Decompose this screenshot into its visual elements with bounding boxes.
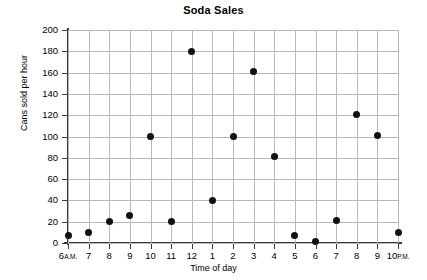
gridline-vertical xyxy=(316,30,317,243)
y-tick-label: 140 xyxy=(26,89,58,99)
x-tick-mark xyxy=(316,244,317,249)
data-point xyxy=(230,133,237,140)
y-tick-label: 0 xyxy=(26,238,58,248)
scatter-chart-figure: Soda Sales 020406080100120140160180200 6… xyxy=(0,0,427,280)
data-point xyxy=(291,232,298,239)
data-point xyxy=(188,48,195,55)
data-point xyxy=(168,218,175,225)
x-tick-mark xyxy=(254,244,255,249)
y-tick-mark xyxy=(62,179,68,180)
chart-title: Soda Sales xyxy=(0,4,427,16)
x-tick-mark xyxy=(171,244,172,249)
x-tick-mark xyxy=(357,244,358,249)
y-axis-title: Cans sold per hour xyxy=(19,23,29,163)
x-tick-mark xyxy=(68,244,69,249)
data-point xyxy=(374,132,381,139)
y-tick-mark xyxy=(62,73,68,74)
gridline-vertical xyxy=(254,30,255,243)
x-axis-title: Time of day xyxy=(0,263,427,273)
x-tick-mark xyxy=(109,244,110,249)
y-tick-label: 100 xyxy=(26,132,58,142)
data-point xyxy=(353,111,360,118)
gridline-vertical xyxy=(336,30,337,243)
data-point xyxy=(106,218,113,225)
y-tick-label: 40 xyxy=(26,195,58,205)
y-tick-mark xyxy=(62,222,68,223)
x-tick-mark xyxy=(233,244,234,249)
gridline-vertical xyxy=(357,30,358,243)
x-tick-mark xyxy=(295,244,296,249)
y-tick-label: 60 xyxy=(26,174,58,184)
y-tick-mark xyxy=(62,115,68,116)
y-tick-mark xyxy=(62,94,68,95)
y-tick-label: 180 xyxy=(26,46,58,56)
data-point xyxy=(395,229,402,236)
gridline-vertical xyxy=(274,30,275,243)
y-tick-mark xyxy=(62,158,68,159)
y-tick-label: 160 xyxy=(26,68,58,78)
x-tick-mark xyxy=(89,244,90,249)
data-point xyxy=(85,229,92,236)
x-tick-label: 10P.M. xyxy=(378,250,418,262)
gridline-vertical xyxy=(192,30,193,243)
data-point xyxy=(147,133,154,140)
x-tick-mark xyxy=(398,244,399,249)
gridline-vertical xyxy=(295,30,296,243)
data-point xyxy=(209,197,216,204)
x-tick-mark xyxy=(377,244,378,249)
y-tick-mark xyxy=(62,137,68,138)
data-point xyxy=(271,153,278,160)
data-point xyxy=(65,232,72,239)
gridline-vertical xyxy=(109,30,110,243)
x-tick-mark xyxy=(151,244,152,249)
x-tick-mark xyxy=(274,244,275,249)
x-tick-mark xyxy=(192,244,193,249)
y-tick-label: 80 xyxy=(26,153,58,163)
gridline-vertical xyxy=(398,30,399,243)
y-tick-mark xyxy=(62,51,68,52)
x-tick-mark xyxy=(130,244,131,249)
y-tick-label: 200 xyxy=(26,25,58,35)
y-tick-mark xyxy=(62,200,68,201)
gridline-vertical xyxy=(68,30,69,243)
x-tick-mark xyxy=(212,244,213,249)
gridline-vertical xyxy=(212,30,213,243)
gridline-vertical xyxy=(89,30,90,243)
data-point xyxy=(250,68,257,75)
data-point xyxy=(333,217,340,224)
plot-area xyxy=(68,30,398,243)
y-tick-mark xyxy=(62,30,68,31)
x-tick-mark xyxy=(336,244,337,249)
gridline-vertical xyxy=(171,30,172,243)
y-tick-label: 20 xyxy=(26,217,58,227)
y-tick-label: 120 xyxy=(26,110,58,120)
data-point xyxy=(126,212,133,219)
